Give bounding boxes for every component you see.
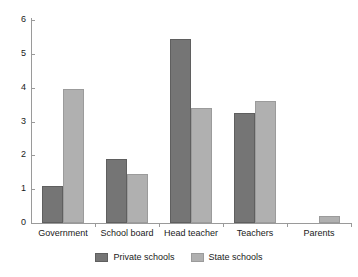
legend-label: Private schools — [113, 252, 174, 263]
bar-state — [319, 216, 340, 223]
chart-legend: Private schoolsState schools — [0, 252, 358, 263]
x-axis-line — [31, 223, 351, 224]
y-tick-label: 6 — [21, 14, 26, 25]
y-tick-label: 2 — [21, 149, 26, 160]
y-tick-label: 1 — [21, 183, 26, 194]
bar-chart: 0123456 GovernmentSchool boardHead teach… — [0, 0, 358, 277]
bar-group — [42, 20, 84, 223]
legend-item[interactable]: State schools — [191, 252, 263, 263]
bar-state — [63, 89, 84, 223]
bar-private — [170, 39, 191, 223]
y-tick: 0 — [31, 223, 35, 224]
bar-group — [234, 20, 276, 223]
legend-item[interactable]: Private schools — [95, 252, 174, 263]
y-tick-label: 3 — [21, 116, 26, 127]
plot-area — [31, 20, 351, 223]
bar-state — [191, 108, 212, 223]
bar-group — [298, 20, 340, 223]
legend-label: State schools — [209, 252, 263, 263]
bar-group — [170, 20, 212, 223]
legend-swatch-icon — [191, 253, 204, 262]
y-tick-label: 4 — [21, 82, 26, 93]
bar-group — [106, 20, 148, 223]
bar-state — [255, 101, 276, 223]
bar-private — [42, 186, 63, 223]
y-tick-mark — [31, 223, 35, 224]
bar-state — [127, 174, 148, 223]
bar-private — [234, 113, 255, 223]
x-tick-label: Parents — [269, 227, 358, 239]
y-tick-label: 5 — [21, 48, 26, 59]
bar-private — [106, 159, 127, 223]
legend-swatch-icon — [95, 253, 108, 262]
